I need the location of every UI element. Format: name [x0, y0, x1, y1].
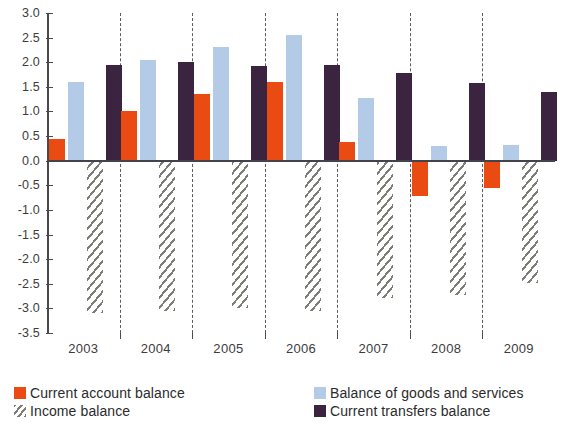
- x-axis-label-2008: 2008: [431, 341, 461, 356]
- group-separator: [120, 13, 121, 333]
- bar-income-2005: [232, 161, 248, 309]
- y-tick-label: -1.0: [18, 203, 40, 217]
- bar-transfer-2006: [324, 65, 340, 161]
- y-tick-mark: [46, 13, 53, 14]
- legend-swatch-goods-icon: [314, 387, 326, 399]
- bar-cab-2008: [412, 161, 428, 196]
- legend-label: Balance of goods and services: [330, 385, 524, 401]
- y-tick-label: -1.5: [18, 228, 40, 242]
- legend-label: Income balance: [30, 403, 130, 419]
- bar-cab-2006: [267, 82, 283, 161]
- bar-goods-2008: [431, 146, 447, 161]
- legend-item-income[interactable]: Income balance: [14, 403, 130, 419]
- legend-label: Current transfers balance: [330, 403, 490, 419]
- group-separator: [192, 13, 193, 333]
- y-tick-label: 1.5: [22, 80, 40, 94]
- bar-cab-2005: [194, 94, 210, 160]
- legend-item-transfer[interactable]: Current transfers balance: [314, 403, 490, 419]
- bar-income-2009: [522, 161, 538, 283]
- x-axis-label-2006: 2006: [286, 341, 316, 356]
- legend-item-cab[interactable]: Current account balance: [14, 385, 185, 401]
- y-tick-label: 1.0: [22, 104, 40, 118]
- y-tick-mark: [46, 111, 53, 112]
- bar-transfer-2007: [396, 73, 412, 161]
- y-tick-mark: [46, 235, 53, 236]
- bar-goods-2005: [213, 47, 229, 160]
- bar-transfer-2005: [251, 66, 267, 161]
- bar-income-2003: [87, 161, 103, 314]
- group-separator: [265, 13, 266, 333]
- bar-cab-2004: [121, 111, 137, 160]
- y-tick-label: 0.5: [22, 129, 40, 143]
- bar-income-2007: [377, 161, 393, 298]
- bar-goods-2009: [503, 145, 519, 161]
- bar-income-2008: [450, 161, 466, 295]
- x-axis-label-2007: 2007: [359, 341, 389, 356]
- legend-label: Current account balance: [30, 385, 185, 401]
- x-tick-mark: [410, 333, 411, 339]
- x-tick-mark: [265, 333, 266, 339]
- bar-goods-2006: [286, 35, 302, 161]
- bar-goods-2003: [68, 82, 84, 161]
- y-tick-mark: [46, 87, 53, 88]
- y-tick-label: 0.0: [22, 154, 40, 168]
- legend-swatch-income-icon: [14, 405, 26, 417]
- bar-goods-2007: [358, 98, 374, 161]
- y-tick-label: -2.5: [18, 277, 40, 291]
- zero-baseline: [47, 160, 555, 162]
- bar-cab-2003: [49, 139, 65, 161]
- x-tick-mark: [192, 333, 193, 339]
- y-tick-label: -3.0: [18, 301, 40, 315]
- bar-goods-2004: [140, 60, 156, 161]
- y-tick-mark: [46, 259, 53, 260]
- legend-swatch-transfer-icon: [314, 405, 326, 417]
- y-axis-line: [47, 13, 49, 333]
- bar-income-2004: [159, 161, 175, 311]
- bar-income-2006: [305, 161, 321, 311]
- y-tick-label: 2.0: [22, 55, 40, 69]
- y-tick-mark: [46, 185, 53, 186]
- plot-area: 3.02.52.01.51.00.50.0-0.5-1.0-1.5-2.0-2.…: [47, 13, 555, 333]
- bar-transfer-2008: [469, 83, 485, 160]
- x-tick-mark: [482, 333, 483, 339]
- bar-cab-2007: [339, 142, 355, 161]
- y-tick-label: -0.5: [18, 178, 40, 192]
- x-axis-label-2005: 2005: [213, 341, 243, 356]
- y-tick-label: 3.0: [22, 6, 40, 20]
- x-axis-label-2009: 2009: [504, 341, 534, 356]
- bar-chart: 3.02.52.01.51.00.50.0-0.5-1.0-1.5-2.0-2.…: [0, 0, 565, 423]
- x-tick-mark: [120, 333, 121, 339]
- y-tick-label: -2.0: [18, 252, 40, 266]
- x-axis-label-2004: 2004: [141, 341, 171, 356]
- legend-item-goods[interactable]: Balance of goods and services: [314, 385, 524, 401]
- legend-swatch-cab-icon: [14, 387, 26, 399]
- bar-transfer-2004: [178, 62, 194, 160]
- y-tick-label: -3.5: [18, 326, 40, 340]
- group-separator: [337, 13, 338, 333]
- bar-transfer-2003: [106, 65, 122, 161]
- y-tick-mark: [46, 136, 53, 137]
- y-tick-mark: [46, 284, 53, 285]
- y-tick-mark: [46, 308, 53, 309]
- x-axis-label-2003: 2003: [68, 341, 98, 356]
- bar-transfer-2009: [541, 92, 557, 161]
- y-tick-mark: [46, 38, 53, 39]
- bar-cab-2009: [484, 161, 500, 189]
- y-tick-label: 2.5: [22, 31, 40, 45]
- y-tick-mark: [46, 333, 53, 334]
- y-tick-mark: [46, 210, 53, 211]
- x-tick-mark: [337, 333, 338, 339]
- chart-legend: Current account balanceBalance of goods …: [14, 385, 554, 421]
- y-tick-mark: [46, 62, 53, 63]
